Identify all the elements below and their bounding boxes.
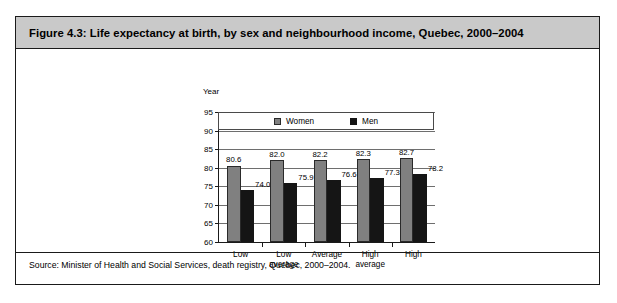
- y-axis-tick-label: 70: [204, 200, 213, 209]
- legend-entry-men: Men: [350, 117, 378, 126]
- bar-men-high-average: [370, 178, 384, 242]
- y-axis-tick-label: 75: [204, 182, 213, 191]
- figure-title: Figure 4.3: Life expectancy at birth, by…: [16, 27, 524, 39]
- y-axis-tick-label: 80: [204, 163, 213, 172]
- legend-swatch-icon: [274, 118, 281, 125]
- y-axis-tick: [215, 242, 219, 243]
- y-axis-tick-label: 95: [204, 108, 213, 117]
- bar-women-low-average: [270, 160, 284, 242]
- y-axis-title: Year: [203, 87, 219, 96]
- y-axis-tick: [215, 131, 219, 132]
- bar-women-low: [227, 166, 241, 243]
- bar-value-label: 75.9: [298, 173, 313, 183]
- bar-women-average: [314, 160, 328, 242]
- figure-source: Source: Minister of Health and Social Se…: [29, 260, 350, 270]
- bar-value-label: 78.2: [428, 164, 443, 174]
- x-axis-tick: [262, 242, 263, 247]
- y-axis-tick: [215, 168, 219, 169]
- bar-value-label: 77.3: [385, 168, 400, 178]
- figure-title-bar: Figure 4.3: Life expectancy at birth, by…: [16, 17, 599, 49]
- y-axis-tick: [215, 149, 219, 150]
- y-axis-tick-label: 60: [204, 238, 213, 247]
- y-axis-tick: [215, 223, 219, 224]
- legend-swatch-icon: [350, 118, 357, 125]
- chart-plot-wrapper: Year 606570758085909580.674.0Low82.075.9…: [203, 87, 443, 252]
- bar-value-label: 80.6: [226, 155, 241, 165]
- legend-entry-women: Women: [274, 117, 314, 126]
- y-axis-tick: [215, 186, 219, 187]
- bar-value-label: 82.2: [313, 150, 328, 160]
- x-axis-tick: [392, 242, 393, 247]
- legend-label: Men: [362, 117, 378, 126]
- y-axis-tick-label: 85: [204, 145, 213, 154]
- bar-value-label: 82.7: [399, 148, 414, 158]
- bar-women-high-average: [357, 159, 371, 242]
- x-axis-tick: [305, 242, 306, 247]
- gridline: [219, 131, 435, 132]
- x-axis-tick: [349, 242, 350, 247]
- source-separator: [16, 252, 599, 253]
- plot-area: 606570758085909580.674.0Low82.075.9Low a…: [218, 112, 435, 243]
- bar-men-high: [413, 174, 427, 242]
- bar-value-label: 76.6: [342, 170, 357, 180]
- bar-women-high: [400, 158, 414, 242]
- chart-legend: WomenMen: [218, 112, 434, 130]
- y-axis-tick-label: 90: [204, 126, 213, 135]
- bar-value-label: 82.3: [356, 149, 371, 159]
- bar-value-label: 74.0: [255, 180, 270, 190]
- y-axis-tick: [215, 205, 219, 206]
- chart-body: Year 606570758085909580.674.0Low82.075.9…: [16, 49, 599, 252]
- bar-men-average: [327, 180, 341, 242]
- bar-value-label: 82.0: [269, 150, 284, 160]
- legend-label: Women: [286, 117, 314, 126]
- bar-men-low: [241, 190, 255, 242]
- figure-container: Figure 4.3: Life expectancy at birth, by…: [15, 16, 600, 285]
- bar-men-low-average: [284, 183, 298, 242]
- y-axis-tick-label: 65: [204, 219, 213, 228]
- x-axis-category-label: High average: [355, 250, 385, 270]
